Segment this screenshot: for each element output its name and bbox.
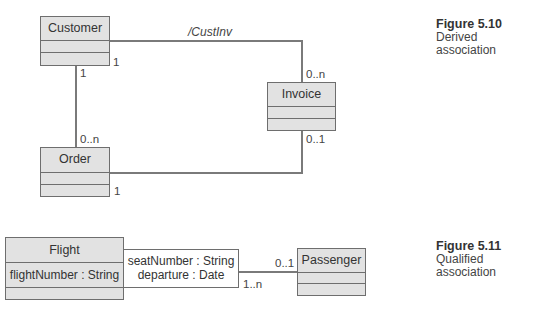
class-divider [41, 40, 109, 41]
class-divider [41, 52, 109, 53]
figure-caption-line: association [436, 265, 496, 279]
multiplicity-flight-end: 1..n [243, 278, 262, 290]
multiplicity-invoice-end: 0..n [306, 68, 325, 80]
class-flight: Flight flightNumber : String [5, 237, 124, 300]
association-line-flight-passenger [239, 271, 297, 273]
class-passenger: Passenger [297, 248, 366, 296]
multiplicity-passenger-end: 0..1 [275, 257, 294, 269]
association-line-customer-invoice [110, 40, 303, 42]
figure-caption-line: Qualified [436, 252, 483, 266]
multiplicity-order-end: 1 [114, 185, 120, 197]
figure-caption: Figure 5.10 Derived association [436, 18, 502, 57]
class-divider [268, 106, 335, 107]
qualifier-box: seatNumber : String departure : Date [123, 249, 239, 288]
association-line-customer-invoice [301, 40, 303, 82]
class-divider [298, 283, 365, 284]
class-divider [268, 118, 335, 119]
multiplicity-customer-end: 1 [113, 56, 119, 68]
figure-caption: Figure 5.11 Qualified association [436, 240, 501, 279]
class-order: Order [40, 147, 110, 197]
class-divider [6, 287, 123, 288]
class-divider [41, 184, 109, 185]
multiplicity-invoice-end: 0..1 [306, 133, 325, 145]
class-divider [6, 262, 123, 263]
association-line-order-invoice [301, 131, 303, 173]
qualifier-seat-number: seatNumber : String [124, 254, 238, 268]
derived-role-label: /CustInv [188, 25, 232, 39]
class-flight-attribute: flightNumber : String [6, 268, 123, 282]
class-order-name: Order [41, 152, 109, 166]
class-divider [298, 272, 365, 273]
class-divider [41, 172, 109, 173]
class-invoice: Invoice [267, 82, 336, 131]
class-flight-name: Flight [6, 243, 123, 257]
class-invoice-name: Invoice [268, 87, 335, 101]
qualifier-departure: departure : Date [124, 268, 238, 282]
multiplicity-order-end: 0..n [80, 133, 99, 145]
class-customer: Customer [40, 16, 110, 66]
figure-caption-line: Derived [436, 30, 477, 44]
association-line-customer-order [75, 66, 77, 147]
class-passenger-name: Passenger [298, 253, 365, 267]
class-customer-name: Customer [41, 21, 109, 35]
association-line-order-invoice [110, 172, 303, 174]
figure-caption-line: association [436, 43, 496, 57]
multiplicity-customer-end: 1 [80, 67, 86, 79]
